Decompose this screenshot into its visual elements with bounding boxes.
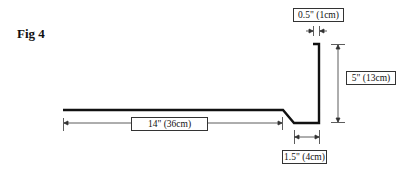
channel-width-label: 1.5" (4cm) <box>282 150 327 164</box>
profile-diagram <box>0 0 414 175</box>
wall-height-dimension <box>331 45 345 123</box>
base-length-label: 14" (36cm) <box>131 117 208 131</box>
wall-height-label: 5" (13cm) <box>346 71 396 85</box>
lip-width-dimension <box>306 26 327 36</box>
lip-width-label: 0.5" (1cm) <box>293 8 344 22</box>
channel-width-dimension <box>294 130 320 144</box>
profile-outline <box>63 44 319 123</box>
